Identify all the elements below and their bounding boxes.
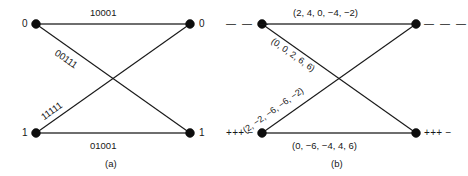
state-label-bottom-right: +++ − (424, 128, 452, 138)
state-label-top-right: — — — (424, 19, 468, 29)
state-label-bottom-right: 1 (199, 128, 205, 138)
panel-b-caption: (b) (331, 159, 343, 169)
node-bottom-left (258, 129, 267, 138)
edge-label-bottom: 01001 (90, 141, 116, 151)
state-label-bottom-left: 1 (22, 128, 28, 138)
edge-label-top: (2, 4, 0, −4, −2) (293, 8, 358, 18)
edge-label-bottom: (0, −6, −4, 4, 6) (292, 141, 357, 151)
node-top-right (186, 20, 195, 29)
state-label-top-right: 0 (199, 19, 205, 29)
panel-a: 0 0 1 1 10001 01001 00111 11111 (a) (0, 0, 226, 176)
node-bottom-right (412, 129, 421, 138)
state-label-top-left: — — — (226, 19, 270, 29)
panel-b: — — — — — — +++ − +++ − (2, 4, 0, −4, −2… (226, 0, 452, 176)
panel-a-caption: (a) (105, 159, 117, 169)
node-bottom-left (32, 129, 41, 138)
state-label-top-left: 0 (22, 19, 28, 29)
node-top-right (412, 20, 421, 29)
node-bottom-right (186, 129, 195, 138)
edge-label-top: 10001 (90, 8, 116, 18)
node-top-left (32, 20, 41, 29)
